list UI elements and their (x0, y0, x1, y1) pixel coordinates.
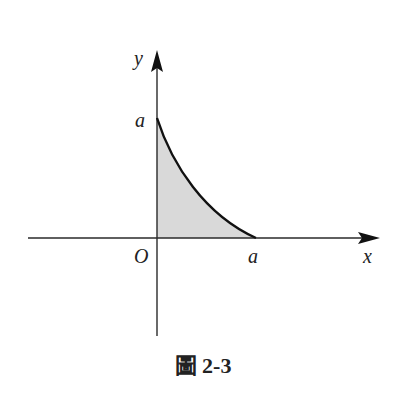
shaded-region (157, 118, 256, 238)
y-axis-label: y (134, 48, 143, 68)
x-intercept-label: a (248, 246, 258, 266)
diagram-canvas (0, 0, 406, 395)
x-axis-label: x (363, 246, 372, 266)
origin-label: O (134, 246, 148, 266)
figure-caption: 圖 2-3 (0, 347, 406, 379)
y-intercept-label: a (135, 110, 145, 130)
